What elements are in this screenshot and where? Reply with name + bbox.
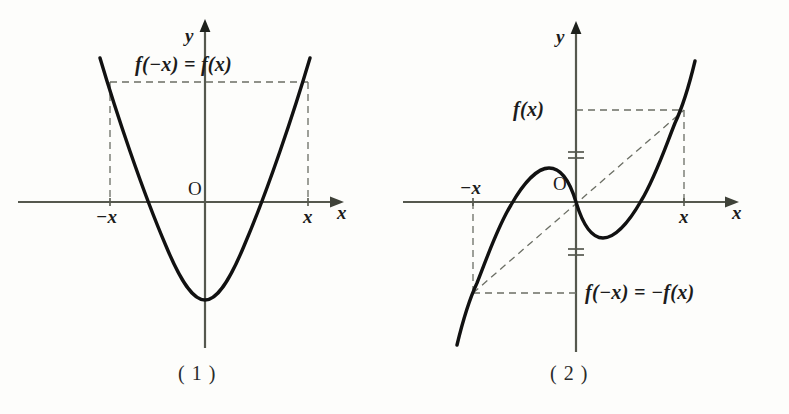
x-axis-label: x [732, 203, 742, 222]
relation-label-even: f(−x) = f(x) [135, 54, 232, 74]
relation-label-odd: f(−x) = −f(x) [585, 282, 695, 302]
origin-label: O [188, 179, 202, 198]
tick-label-pos-x: x [679, 207, 689, 226]
panel-even-function: y x O −x x f(−x) = f(x) ( 1 ) [0, 0, 395, 414]
y-axis-label: y [556, 27, 564, 46]
tick-label-neg-x: −x [96, 207, 117, 226]
figure-canvas: y x O −x x f(−x) = f(x) ( 1 ) [0, 0, 789, 414]
x-axis [18, 197, 344, 208]
panel-2-graphic [395, 0, 789, 414]
label-fx: f(x) [513, 99, 544, 119]
y-axis [571, 21, 582, 352]
panel-caption-2: ( 2 ) [550, 362, 588, 385]
x-axis-label: x [337, 203, 347, 222]
tick-label-neg-x: −x [460, 178, 481, 197]
tick-label-pos-x: x [303, 207, 313, 226]
panel-odd-function: y x O −x x f(x) f(−x) = −f(x) ( 2 ) [395, 0, 789, 414]
origin-label: O [553, 174, 567, 193]
panel-caption-1: ( 1 ) [178, 362, 216, 385]
y-axis-label: y [185, 26, 193, 45]
